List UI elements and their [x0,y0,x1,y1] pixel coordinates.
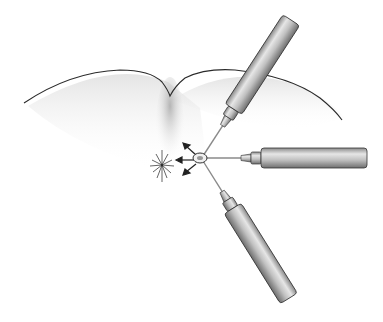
right-syringe [205,148,367,168]
lower-syringe [195,156,298,304]
illustration [0,0,383,322]
illustration-svg [0,0,383,322]
arrow-down-left [183,164,196,175]
convergence-core [197,156,203,160]
